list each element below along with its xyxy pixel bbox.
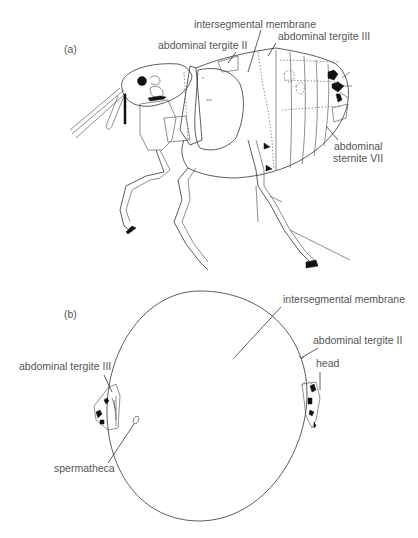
panel-a: (a) intersegmental membrane abdominal te… [64, 18, 383, 270]
label-b-head: head [316, 357, 340, 369]
label-b-spermatheca: spermatheca [54, 462, 115, 474]
panel-b-label: (b) [64, 308, 77, 320]
panel-b: (b) intersegmental membrane abdominal te… [19, 291, 405, 521]
distended-abdomen-outline [107, 291, 307, 521]
label-a-abdominal-tergite-ii: abdominal tergite II [158, 39, 247, 51]
flea-middle-leg [174, 168, 208, 270]
leader-a-sternite-vii [326, 126, 338, 140]
leader-b-spermatheca [108, 424, 134, 463]
flea-abdomen [182, 48, 349, 178]
flea-tail-setae [328, 70, 344, 102]
flea-illustration [70, 48, 352, 270]
flea-eye [138, 77, 147, 86]
spermatheca [132, 415, 140, 424]
label-a-intersegmental-membrane: intersegmental membrane [194, 18, 316, 30]
label-a-abdominal-sternite-vii-1: abdominal [334, 140, 382, 152]
label-b-abdominal-tergite-ii: abdominal tergite II [313, 334, 402, 346]
label-b-intersegmental-membrane: intersegmental membrane [283, 293, 405, 305]
flea-mouthparts [70, 88, 126, 138]
leader-b-intersegmental [234, 307, 281, 358]
label-a-abdominal-sternite-vii-2: sternite VII [333, 152, 383, 164]
flea-diagram: (a) intersegmental membrane abdominal te… [0, 0, 418, 538]
label-a-abdominal-tergite-iii: abdominal tergite III [278, 30, 370, 42]
leader-a-tergite-iii [268, 43, 276, 56]
panel-a-label: (a) [64, 43, 77, 55]
head-cluster [302, 380, 320, 428]
flea-front-leg [120, 150, 164, 232]
label-b-abdominal-tergite-iii: abdominal tergite III [19, 360, 111, 372]
